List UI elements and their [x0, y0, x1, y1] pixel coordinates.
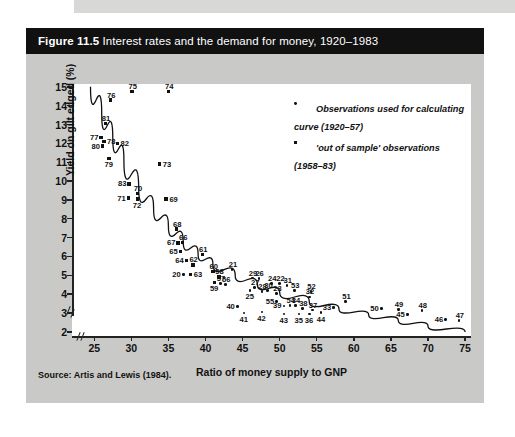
- data-point-label-21: 21: [229, 261, 237, 269]
- y-axis-title: Yield on gilt edged (%): [64, 64, 76, 176]
- data-point-label-81: 81: [102, 115, 110, 123]
- figure-number: Figure 11.5: [38, 35, 99, 47]
- x-tick-label-25: 25: [81, 343, 107, 354]
- data-point-39: [283, 305, 286, 308]
- legend-item-0: Observations used for calculating curve …: [294, 98, 466, 134]
- y-tick-label-8: 8: [43, 214, 67, 225]
- data-point-label-49: 49: [395, 301, 403, 309]
- data-point-label-33: 33: [323, 304, 331, 312]
- data-point-label-82: 82: [120, 140, 128, 148]
- data-point-label-39: 39: [273, 302, 281, 310]
- x-tick-label-50: 50: [267, 343, 293, 354]
- data-point-25: [249, 289, 252, 292]
- data-point-label-45: 45: [396, 311, 404, 319]
- data-point-label-71: 71: [117, 195, 125, 203]
- data-point-78: [102, 140, 105, 143]
- x-tick-label-75: 75: [452, 343, 478, 354]
- data-point-63: [189, 273, 192, 276]
- data-point-43: [283, 313, 286, 316]
- data-point-label-67: 67: [167, 239, 175, 247]
- y-tick-5: [67, 275, 72, 276]
- y-tick-label-4: 4: [43, 289, 67, 300]
- data-point-label-38: 38: [299, 300, 307, 308]
- data-point-73: [158, 162, 161, 165]
- data-point-82: [116, 142, 119, 145]
- y-tick-label-10: 10: [43, 176, 67, 187]
- data-point-label-35: 35: [294, 317, 302, 325]
- data-point-label-46: 46: [435, 316, 443, 324]
- data-point-label-30: 30: [264, 282, 272, 290]
- y-tick-9: [67, 199, 72, 200]
- figure-panel: Figure 11.5 Interest rates and the deman…: [26, 28, 484, 403]
- data-point-label-61: 61: [199, 246, 207, 254]
- data-point-40: [236, 305, 239, 308]
- legend-label-1: 'out of sample' observations (1958–83): [294, 143, 440, 171]
- data-point-label-68: 68: [173, 221, 181, 229]
- y-tick-label-6: 6: [43, 251, 67, 262]
- data-point-64: [185, 259, 188, 262]
- data-point-label-66: 66: [179, 234, 187, 242]
- y-tick-label-5: 5: [43, 270, 67, 281]
- data-point-label-63: 63: [194, 271, 202, 279]
- data-point-20: [182, 273, 185, 276]
- data-point-67: [176, 241, 179, 244]
- data-point-label-25: 25: [245, 293, 253, 301]
- data-point-label-48: 48: [419, 302, 427, 310]
- x-tick-label-70: 70: [415, 343, 441, 354]
- data-point-69: [164, 197, 167, 200]
- y-tick-8: [67, 218, 72, 219]
- x-tick-label-30: 30: [118, 343, 144, 354]
- data-point-label-36: 36: [305, 317, 313, 325]
- data-point-label-60: 60: [209, 263, 217, 271]
- data-point-46: [444, 318, 447, 321]
- x-tick-label-55: 55: [304, 343, 330, 354]
- x-tick-55: [316, 336, 317, 341]
- data-point-label-75: 75: [129, 83, 137, 91]
- scan-artifact-top: [74, 0, 515, 13]
- data-point-label-65: 65: [169, 248, 177, 256]
- scan-artifact-corner: [0, 0, 74, 20]
- data-point-label-50: 50: [370, 305, 378, 313]
- y-tick-7: [67, 237, 72, 238]
- x-tick-40: [205, 336, 206, 341]
- x-tick-label-35: 35: [155, 343, 181, 354]
- legend-dot-marker-icon: [294, 102, 297, 105]
- y-tick-6: [67, 256, 72, 257]
- data-point-33: [332, 306, 335, 309]
- figure-title-bar: Figure 11.5 Interest rates and the deman…: [26, 28, 484, 54]
- data-point-83: [127, 182, 130, 185]
- data-point-45: [406, 313, 409, 316]
- data-point-35: [298, 313, 301, 316]
- data-point-41: [243, 312, 246, 315]
- x-tick-50: [279, 336, 280, 341]
- y-tick-label-9: 9: [43, 195, 67, 206]
- data-point-42: [261, 311, 264, 314]
- data-point-label-23: 23: [273, 285, 281, 293]
- figure-title-text: Interest rates and the demand for money,…: [102, 35, 378, 47]
- page-title: Figure 11.5 Interest rates and the deman…: [26, 35, 378, 47]
- data-point-65: [179, 250, 182, 253]
- data-point-label-62: 62: [189, 256, 197, 264]
- data-point-55: [275, 300, 278, 303]
- legend-item-1: 'out of sample' observations (1958–83): [294, 137, 466, 173]
- data-point-label-40: 40: [226, 303, 234, 311]
- data-point-label-51: 51: [342, 293, 350, 301]
- data-point-label-69: 69: [169, 196, 177, 204]
- data-point-label-29: 29: [249, 270, 257, 278]
- data-point-label-78: 78: [107, 138, 115, 146]
- x-tick-25: [94, 336, 95, 341]
- figure-page: Figure 11.5 Interest rates and the deman…: [0, 0, 515, 437]
- y-tick-label-3: 3: [43, 308, 67, 319]
- data-point-label-74: 74: [165, 83, 173, 91]
- data-point-80: [101, 144, 104, 147]
- y-tick-10: [67, 180, 72, 181]
- x-tick-75: [464, 336, 465, 341]
- data-point-label-54: 54: [287, 297, 295, 305]
- data-point-label-20: 20: [172, 271, 180, 279]
- data-point-label-76: 76: [107, 92, 115, 100]
- x-tick-label-60: 60: [341, 343, 367, 354]
- y-tick-label-2: 2: [43, 327, 67, 338]
- data-point-71: [127, 196, 130, 199]
- data-point-50: [380, 307, 383, 310]
- data-point-label-70: 70: [134, 185, 142, 193]
